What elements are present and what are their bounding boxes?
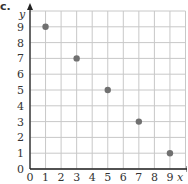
tick-labels: 01234567890123456789 — [17, 21, 173, 184]
scatter-chart: 01234567890123456789 x y — [0, 0, 187, 184]
data-point — [167, 150, 173, 156]
x-axis-label: x — [177, 171, 184, 184]
x-tick-label: 9 — [166, 171, 173, 184]
x-tick-label: 8 — [151, 171, 158, 184]
x-tick-label: 6 — [120, 171, 127, 184]
y-tick-label: 4 — [17, 100, 24, 113]
x-tick-label: 4 — [89, 171, 96, 184]
y-tick-label: 7 — [17, 52, 24, 65]
y-tick-label: 3 — [17, 116, 24, 129]
y-tick-label: 1 — [17, 147, 24, 160]
x-tick-label: 2 — [58, 171, 65, 184]
y-tick-label: 0 — [17, 163, 24, 176]
y-tick-label: 6 — [17, 68, 24, 81]
x-axis-arrow-icon — [187, 166, 188, 172]
data-point — [105, 87, 111, 93]
y-tick-label: 9 — [17, 21, 24, 34]
data-point — [42, 24, 48, 30]
x-tick-label: 0 — [27, 171, 34, 184]
y-tick-label: 2 — [17, 131, 24, 144]
x-tick-label: 3 — [73, 171, 80, 184]
x-tick-label: 7 — [135, 171, 142, 184]
y-tick-label: 8 — [17, 37, 24, 50]
y-axis-arrow-icon — [27, 3, 33, 10]
y-tick-label: 5 — [17, 84, 24, 97]
x-tick-label: 5 — [104, 171, 111, 184]
data-point — [136, 118, 142, 124]
y-axis-label: y — [18, 8, 26, 21]
data-point — [73, 55, 79, 61]
x-tick-label: 1 — [42, 171, 49, 184]
